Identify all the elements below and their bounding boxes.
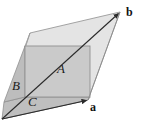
- vector-label-a: a: [90, 101, 96, 113]
- vector-label-b: b: [126, 6, 133, 18]
- triangle-B: [4, 46, 25, 102]
- figure-canvas: [0, 0, 142, 134]
- region-label-A: A: [57, 62, 65, 75]
- region-label-B: B: [12, 79, 20, 92]
- geometry-figure: A B C a b: [0, 0, 142, 134]
- region-label-C: C: [28, 95, 37, 108]
